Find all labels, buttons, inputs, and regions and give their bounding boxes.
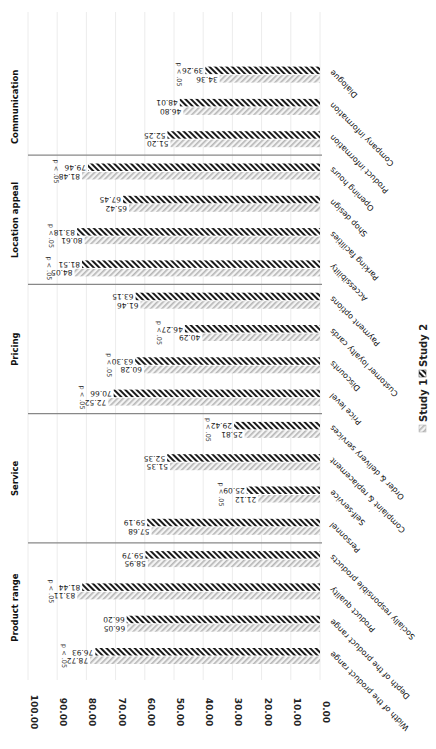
value-label-study1: 61.46	[117, 301, 139, 310]
significance-label: p < .05	[47, 579, 55, 603]
value-label-study1: 66.05	[103, 624, 125, 633]
category-label: Personnel	[328, 520, 362, 554]
bar-study2	[114, 390, 320, 398]
bar-study1	[129, 204, 320, 212]
y-tick-label: 90.00	[58, 698, 68, 726]
category-label: Product information	[328, 133, 390, 195]
value-label-study2: 79.46	[64, 163, 86, 172]
value-label-study2: 63.15	[112, 292, 134, 301]
axis-ticks: 0.0010.0020.0030.0040.0050.0060.0070.008…	[29, 695, 331, 730]
bar-study1	[144, 366, 320, 374]
value-label-study2: 63.30	[111, 357, 133, 366]
value-label-study2: 83.18	[53, 228, 75, 237]
legend-swatch-study2	[419, 370, 426, 377]
value-label-study1: 72.52	[85, 398, 107, 407]
value-label-study1: 58.95	[124, 559, 146, 568]
significance-label: p < .05	[60, 644, 68, 668]
value-label-study1: 51.20	[147, 139, 169, 148]
category-label: Company information	[328, 100, 396, 168]
significance-label: p < .05	[155, 321, 163, 345]
y-tick-label: 100.00	[29, 695, 39, 730]
y-tick-label: 60.00	[146, 698, 156, 726]
group-label: Communication	[10, 70, 20, 144]
value-label-study2: 46.27	[161, 325, 183, 334]
value-label-study2: 25.09	[223, 486, 245, 495]
bar-study1	[90, 657, 320, 665]
bar-study1	[148, 560, 320, 568]
value-label-study1: 57.68	[128, 527, 150, 536]
value-labels: 76.9378.72p < .0566.2066.0581.4483.11p <…	[45, 63, 257, 668]
group-label: Location appeal	[10, 182, 20, 258]
value-label-study1: 34.36	[196, 75, 218, 84]
bar-study2	[145, 551, 320, 559]
y-tick-label: 50.00	[175, 698, 185, 726]
value-label-study1: 78.72	[66, 656, 88, 665]
bar-study1	[202, 334, 320, 342]
bar-study2	[180, 99, 320, 107]
value-label-study1: 60.28	[120, 365, 142, 374]
bar-study2	[135, 357, 320, 365]
bar-study1	[75, 269, 320, 277]
value-label-study2: 29.42	[210, 421, 232, 430]
value-label-study2: 70.66	[90, 389, 112, 398]
group-labels: Product rangeServicePricingLocation appe…	[10, 70, 20, 642]
value-label-study2: 59.19	[123, 518, 145, 527]
value-label-study1: 21.12	[235, 495, 257, 504]
bar-study1	[82, 172, 320, 180]
group-label: Product range	[10, 573, 20, 642]
category-label: Price level	[328, 391, 363, 426]
bar-study1	[183, 107, 320, 115]
value-label-study2: 52.35	[143, 454, 165, 463]
bar-study2	[167, 131, 320, 139]
bar-study1	[141, 301, 320, 309]
value-label-study1: 80.61	[61, 236, 83, 245]
bar-study2	[77, 228, 320, 236]
bar-study1	[152, 527, 320, 535]
significance-label: p < .05	[78, 386, 86, 410]
value-label-study2: 67.45	[99, 195, 121, 204]
group-dividers	[28, 155, 322, 543]
y-tick-label: 80.00	[87, 698, 97, 726]
value-label-study1: 83.11	[54, 591, 76, 600]
bar-study2	[127, 616, 320, 624]
y-tick-label: 40.00	[204, 698, 214, 726]
bar-study2	[82, 260, 320, 268]
bar-study2	[234, 422, 320, 430]
bar-study1	[77, 592, 320, 600]
group-label: Pricing	[10, 332, 20, 365]
legend: Study 1Study 2	[418, 324, 429, 432]
category-labels: Width of the product rangeDepth of the p…	[328, 68, 417, 732]
bar-study2	[147, 519, 320, 527]
significance-label: p < .05	[47, 224, 55, 248]
legend-label-study2: Study 2	[418, 324, 429, 367]
value-label-study1: 65.42	[105, 204, 127, 213]
bar-study1	[108, 398, 320, 406]
bar-study2	[247, 487, 320, 495]
bar-study1	[85, 237, 320, 245]
category-label: Dialogue	[328, 68, 360, 100]
y-tick-label: 20.00	[263, 698, 273, 726]
value-label-study2: 59.79	[122, 551, 144, 560]
value-label-study2: 39.26	[182, 66, 204, 75]
bar-chart: 76.9378.72p < .0566.2066.0581.4483.11p <…	[0, 0, 436, 749]
bar-study2	[167, 454, 320, 462]
y-tick-label: 0.00	[321, 701, 331, 723]
significance-label: p < .05	[52, 159, 60, 183]
bar-study2	[205, 67, 320, 75]
value-label-study1: 51.35	[146, 462, 168, 471]
value-label-study1: 81.48	[58, 172, 80, 181]
bar-study1	[170, 140, 320, 148]
value-label-study1: 25.81	[221, 430, 243, 439]
bar-study2	[88, 164, 320, 172]
legend-swatch-study1	[419, 425, 426, 432]
group-label: Service	[10, 460, 20, 496]
bar-study1	[220, 75, 320, 83]
bar-study1	[170, 463, 320, 471]
bar-study2	[95, 648, 320, 656]
bar-study2	[185, 325, 320, 333]
bar-study2	[123, 196, 320, 204]
category-label: Discounts	[328, 359, 362, 393]
value-label-study2: 76.93	[72, 648, 94, 657]
significance-label: p < .05	[45, 256, 53, 280]
value-label-study2: 52.25	[144, 131, 166, 140]
